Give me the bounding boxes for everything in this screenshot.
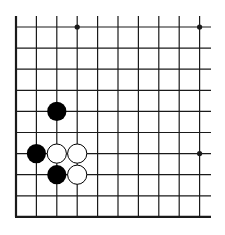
star-point-icon [75,24,80,29]
star-point-icon [197,151,202,156]
black-stone-icon [47,165,66,184]
black-stone-icon [27,144,46,163]
white-stone-icon [47,144,66,163]
white-stone-icon [68,165,87,184]
star-point-icon [197,24,202,29]
go-board [0,0,225,235]
black-stone-icon [47,102,66,121]
grid-lines [15,16,211,217]
white-stone-icon [68,144,87,163]
